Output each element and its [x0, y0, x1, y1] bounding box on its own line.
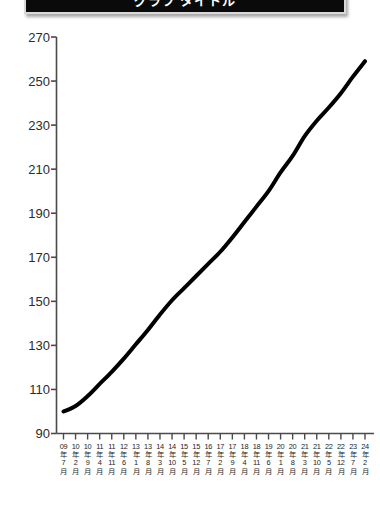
y-tick-label: 230	[28, 118, 50, 133]
y-tick-label: 270	[28, 30, 50, 45]
y-tick-label: 170	[28, 250, 50, 265]
data-series-line	[64, 61, 366, 411]
line-chart: 90110130150170190210230250270 09年7月10年2月…	[0, 0, 380, 516]
y-tick-label: 150	[28, 294, 50, 309]
y-axis-tick-marks	[51, 37, 57, 434]
y-axis-tick-labels: 90110130150170190210230250270	[28, 30, 50, 442]
y-tick-label: 250	[28, 74, 50, 89]
chart-svg: 90110130150170190210230250270	[0, 0, 380, 516]
y-tick-label: 130	[28, 338, 50, 353]
x-tick-label: 24年2月	[358, 443, 372, 477]
y-tick-label: 90	[36, 426, 50, 441]
y-tick-label: 190	[28, 206, 50, 221]
y-tick-label: 110	[29, 382, 50, 397]
y-tick-label: 210	[28, 162, 50, 177]
x-axis-tick-marks	[64, 434, 366, 440]
